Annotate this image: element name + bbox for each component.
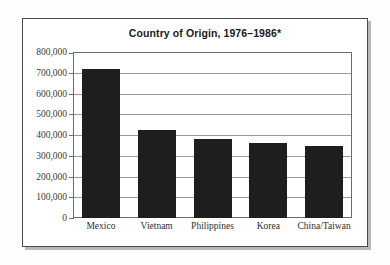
x-axis-tick-label: Mexico xyxy=(86,221,115,231)
y-axis-tick-label: 800,000 xyxy=(13,47,67,57)
x-axis-tick-label: China/Taiwan xyxy=(298,221,351,231)
bar xyxy=(194,139,232,218)
y-axis-tick-label: 500,000 xyxy=(13,109,67,119)
x-axis-labels: MexicoVietnamPhilippinesKoreaChina/Taiwa… xyxy=(73,221,352,237)
y-axis-tick-label: 100,000 xyxy=(13,192,67,202)
y-axis-labels: 0100,000200,000300,000400,000500,000600,… xyxy=(13,52,67,218)
bar-series xyxy=(73,52,352,219)
bar xyxy=(138,130,176,218)
y-axis-tick-label: 300,000 xyxy=(13,151,67,161)
x-axis-tick-label: Korea xyxy=(257,221,280,231)
y-axis-tick-label: 0 xyxy=(13,213,67,223)
x-axis-tick-label: Vietnam xyxy=(141,221,173,231)
bar xyxy=(305,146,343,218)
y-axis-tick-label: 600,000 xyxy=(13,89,67,99)
bar xyxy=(82,69,120,218)
chart-title: Country of Origin, 1976–1986* xyxy=(60,27,350,39)
y-axis-tick-label: 400,000 xyxy=(13,130,67,140)
y-axis-tick-label: 200,000 xyxy=(13,172,67,182)
bar xyxy=(249,143,287,218)
y-axis-tick-label: 700,000 xyxy=(13,68,67,78)
figure-container: Country of Origin, 1976–1986* 0100,00020… xyxy=(0,0,390,265)
x-axis-tick-label: Philippines xyxy=(191,221,234,231)
